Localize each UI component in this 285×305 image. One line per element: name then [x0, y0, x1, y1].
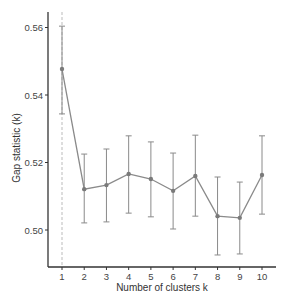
- x-tick-label: 2: [82, 271, 87, 282]
- data-point: [82, 187, 86, 191]
- gap-line: [62, 69, 262, 218]
- y-tick-label: 0.54: [25, 90, 44, 101]
- x-tick-label: 10: [257, 271, 268, 282]
- data-point: [260, 173, 264, 177]
- y-tick-label: 0.52: [25, 157, 44, 168]
- data-point: [215, 214, 219, 218]
- x-tick-label: 9: [237, 271, 242, 282]
- data-point: [193, 174, 197, 178]
- data-point: [126, 172, 130, 176]
- y-tick-label: 0.50: [25, 225, 44, 236]
- x-tick-label: 7: [193, 271, 198, 282]
- x-axis-title: Number of clusters k: [116, 282, 209, 293]
- x-tick-label: 3: [104, 271, 109, 282]
- x-tick-label: 1: [59, 271, 64, 282]
- x-tick-label: 6: [170, 271, 175, 282]
- x-tick-label: 5: [148, 271, 153, 282]
- x-tick-label: 8: [215, 271, 220, 282]
- plot-area: [59, 12, 265, 267]
- y-axis-title: Gap statistic (k): [11, 113, 22, 182]
- x-axis-ticks: 12345678910: [59, 267, 267, 282]
- x-tick-label: 4: [126, 271, 131, 282]
- data-point: [238, 216, 242, 220]
- data-point: [149, 177, 153, 181]
- data-point: [60, 67, 64, 71]
- y-axis-ticks: 0.500.520.540.56: [25, 22, 49, 236]
- gap-statistic-chart: 0.500.520.540.56 12345678910 Number of c…: [0, 0, 285, 305]
- data-point: [171, 189, 175, 193]
- y-tick-label: 0.56: [25, 22, 44, 33]
- data-point: [104, 183, 108, 187]
